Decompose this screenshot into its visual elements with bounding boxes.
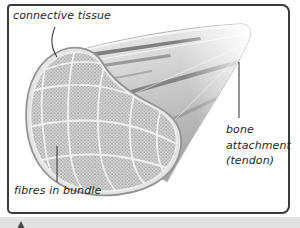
label-bone-attachment-line-1: bone xyxy=(226,122,291,138)
muscle-structure-figure: connective tissue fibres in bundle bone … xyxy=(0,0,300,228)
label-bone-attachment-line-3: (tendon) xyxy=(226,153,291,169)
label-connective-tissue: connective tissue xyxy=(13,9,111,22)
label-bone-attachment-line-2: attachment xyxy=(226,138,291,154)
label-fibres-in-bundle: fibres in bundle xyxy=(14,184,101,197)
label-bone-attachment: bone attachment (tendon) xyxy=(226,122,291,169)
